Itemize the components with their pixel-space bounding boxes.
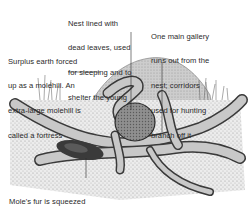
label-line: used for hunting <box>151 107 209 115</box>
label-line: extra-large molehill is <box>8 107 81 115</box>
label-line: nest; corridors <box>151 82 209 90</box>
label-line: Nest lined with <box>68 20 131 28</box>
label-line: up as a molehill. An <box>8 82 81 90</box>
label-molehill: Surplus earth forced up as a molehill. A… <box>8 41 81 157</box>
label-gallery: One main gallery runs out from the nest;… <box>151 16 209 157</box>
label-line: One main gallery <box>151 33 209 41</box>
label-line: Mole's fur is squeezed <box>9 198 90 206</box>
label-line: branch off it <box>151 132 209 140</box>
label-line: called a fortress <box>8 132 81 140</box>
mole-burrow-diagram: Nest lined with dead leaves, used for sl… <box>0 0 251 212</box>
label-line: runs out from the <box>151 57 209 65</box>
label-line: Surplus earth forced <box>8 58 81 66</box>
label-fur: Mole's fur is squeezed clean as it trave… <box>9 181 90 212</box>
